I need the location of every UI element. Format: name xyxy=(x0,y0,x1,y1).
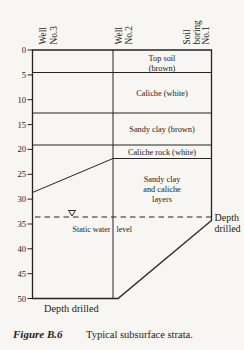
tick-label-30: 30 xyxy=(17,194,26,204)
tick-label-25: 25 xyxy=(17,169,26,179)
depth-drilled-bottom-label: Depth drilled xyxy=(44,303,99,314)
sandy-clay-label: Sandy clay (brown) xyxy=(129,125,195,134)
tick-label-15: 15 xyxy=(17,120,26,130)
sandy-clay-caliche-label-line1: Sandy clay xyxy=(144,175,181,184)
well-no3-label-word2: No.3 xyxy=(49,26,59,45)
depth-drilled-right-line1: Depth xyxy=(215,212,239,223)
tick-label-35: 35 xyxy=(17,219,26,229)
depth-drilled-right-line2: drilled xyxy=(215,223,241,234)
figure-page: Well No.3 Well No.2 Soil boring No.1 0 5… xyxy=(0,0,244,350)
top-soil-label-line2: (brown) xyxy=(149,64,176,73)
tick-label-0: 0 xyxy=(22,45,26,55)
figure-caption-text: Typical subsurface strata. xyxy=(86,329,193,340)
well-no2-label-word2: No.2 xyxy=(124,26,134,45)
well-no2-label-word1: Well xyxy=(114,27,124,45)
tick-label-45: 45 xyxy=(17,269,26,279)
sandy-clay-caliche-label-line3: layers xyxy=(152,195,172,204)
soil-boring-no1-label-word1: Soil xyxy=(182,29,192,44)
sandy-clay-caliche-label-line2: and caliche xyxy=(143,185,181,194)
soil-boring-no1-label-word2: boring xyxy=(192,20,202,45)
static-water-label-left: Static water xyxy=(73,225,111,234)
depth-axis: 0 5 10 15 20 25 30 35 40 45 50 xyxy=(17,45,32,304)
soil-boring-no1-label-word3: No.1 xyxy=(201,26,211,45)
stratum-labels: Top soil (brown) Caliche (white) Sandy c… xyxy=(128,54,196,204)
caliche-label: Caliche (white) xyxy=(136,89,188,98)
figure-caption-label: Figure B.6 xyxy=(12,328,63,340)
tick-label-5: 5 xyxy=(22,70,26,80)
caliche-rock-bottom-boundary-dipping xyxy=(33,159,114,193)
subsurface-strata-diagram: Well No.3 Well No.2 Soil boring No.1 0 5… xyxy=(0,0,244,350)
column-headers: Well No.3 Well No.2 Soil boring No.1 xyxy=(38,20,212,45)
tick-label-50: 50 xyxy=(17,294,26,304)
caliche-rock-label: Caliche rock (white) xyxy=(128,148,196,157)
drilled-section-outline xyxy=(33,50,212,299)
tick-label-10: 10 xyxy=(17,95,26,105)
water-table-icon xyxy=(69,211,76,217)
well-no3-label-word1: Well xyxy=(38,27,48,45)
static-water-label-right: level xyxy=(117,225,133,234)
top-soil-label-line1: Top soil xyxy=(149,54,177,63)
figure-caption: Figure B.6 Typical subsurface strata. xyxy=(12,328,193,340)
tick-label-20: 20 xyxy=(17,144,26,154)
tick-label-40: 40 xyxy=(17,244,26,254)
